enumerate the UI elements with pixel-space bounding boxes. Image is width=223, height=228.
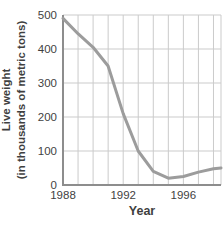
y-tick-label: 400: [38, 43, 57, 55]
line-chart-svg: 0100200300400500198819921996YearLive wei…: [0, 0, 223, 228]
line-chart-figure: 0100200300400500198819921996YearLive wei…: [0, 0, 223, 228]
y-tick-label: 200: [38, 111, 57, 123]
y-axis-title-line1: Live weight: [0, 69, 12, 132]
y-axis-title-line2: (in thousands of metric tons): [15, 21, 27, 180]
x-axis-title: Year: [129, 204, 156, 218]
x-tick-label: 1992: [110, 189, 136, 201]
y-tick-label: 300: [38, 77, 57, 89]
chart-panel: 0100200300400500198819921996YearLive wei…: [0, 0, 223, 228]
x-tick-label: 1988: [50, 189, 76, 201]
y-tick-label: 500: [38, 9, 57, 21]
x-tick-label: 1996: [171, 189, 197, 201]
y-tick-label: 100: [38, 145, 57, 157]
